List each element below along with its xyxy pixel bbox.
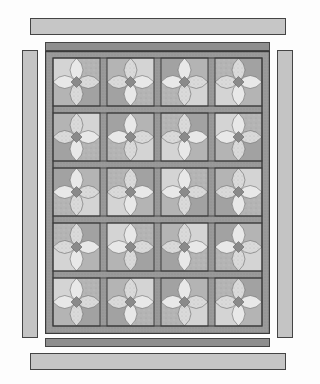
quilt-block	[161, 223, 208, 271]
outer-border-top	[30, 18, 286, 35]
quilt-block	[107, 58, 154, 106]
quilt-block	[53, 168, 100, 216]
outer-border-bottom	[30, 353, 286, 370]
quilt-block	[107, 223, 154, 271]
outer-border-left	[22, 50, 38, 338]
quilt-block	[107, 168, 154, 216]
quilt-block	[161, 113, 208, 161]
quilt-block	[161, 278, 208, 326]
outer-border-right	[277, 50, 293, 338]
quilt-blocks-grid	[45, 51, 270, 334]
quilt-block	[107, 113, 154, 161]
quilt-block	[215, 278, 262, 326]
inner-border-bottom	[45, 338, 270, 347]
quilt-block	[53, 223, 100, 271]
quilt-block	[215, 168, 262, 216]
quilt-block	[215, 113, 262, 161]
quilt-block	[107, 278, 154, 326]
quilt-block	[161, 168, 208, 216]
quilt-block	[53, 113, 100, 161]
inner-border-top	[45, 42, 270, 51]
quilt-block	[53, 58, 100, 106]
quilt-block	[53, 278, 100, 326]
quilt-body	[45, 51, 270, 334]
quilt-block	[215, 58, 262, 106]
quilt-block	[215, 223, 262, 271]
quilt-block	[161, 58, 208, 106]
